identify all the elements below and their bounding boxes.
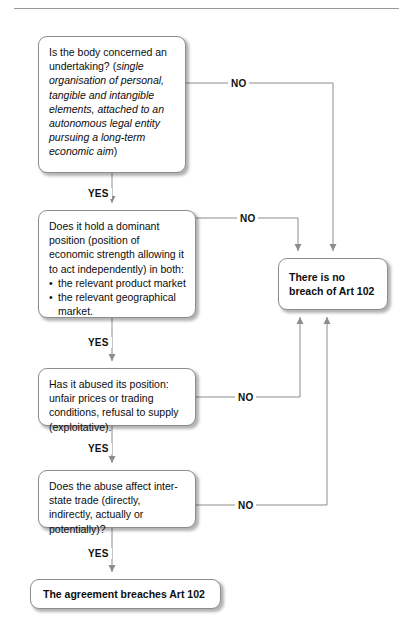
node-undertaking-tail: ) [114,145,118,157]
edge-label-yes-3: YES [85,443,112,454]
header-divider [14,8,399,9]
node-undertaking-lead: Is the body concerned an undertaking? ( [49,46,167,72]
edge-no-3 [196,317,300,397]
node-interstate-text: Does the abuse affect inter-state trade … [49,480,178,535]
edge-no-4 [196,317,327,505]
edge-label-no-2: NO [237,213,258,224]
edge-label-yes-1: YES [85,188,112,199]
edge-label-yes-2: YES [85,337,112,348]
terminal-node-breaches: The agreement breaches Art 102 [30,579,221,609]
node-abuse-text: Has it abused its position: unfair price… [49,378,179,433]
node-dominant-bullet-list: the relevant product market the relevant… [49,276,186,319]
decision-node-inter-state-trade: Does the abuse affect inter-state trade … [38,470,196,528]
node-dominant-lead: Does it hold a dominant position (positi… [49,219,186,276]
node-nobreach-text: There is no breach of Art 102 [289,270,378,298]
edge-label-yes-4: YES [85,548,112,559]
decision-node-undertaking: Is the body concerned an undertaking? (s… [38,36,186,173]
decision-node-abuse: Has it abused its position: unfair price… [38,368,196,426]
list-item: the relevant geographical market. [49,290,186,318]
decision-node-dominant-position: Does it hold a dominant position (positi… [38,210,196,318]
list-item: the relevant product market [49,276,186,290]
edge-label-no-4: NO [235,500,256,511]
terminal-node-no-breach: There is no breach of Art 102 [278,258,388,310]
edge-label-no-3: NO [235,392,256,403]
edge-no-1 [186,83,333,251]
node-undertaking-italic: single organisation of personal, tangibl… [49,60,164,157]
node-breaches-text: The agreement breaches Art 102 [43,587,205,601]
edge-label-no-1: NO [228,78,249,89]
